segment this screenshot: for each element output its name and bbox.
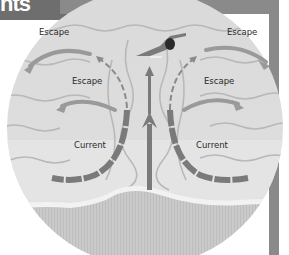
label-current-left: Current <box>74 140 106 150</box>
rip-current-diagram <box>0 0 289 255</box>
water-circle <box>0 0 289 255</box>
label-escape-mid-left: Escape <box>72 76 102 86</box>
label-escape-mid-right: Escape <box>204 76 234 86</box>
label-current-right: Current <box>196 140 228 150</box>
label-escape-top-left: Escape <box>39 27 69 37</box>
label-escape-top-right: Escape <box>227 27 257 37</box>
